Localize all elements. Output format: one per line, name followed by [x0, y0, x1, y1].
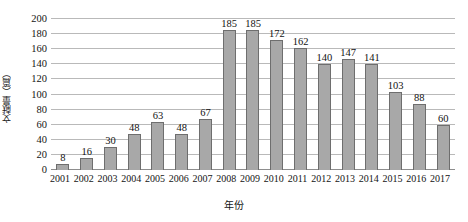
bar[interactable]: [56, 164, 69, 170]
bar-group[interactable]: 67: [194, 19, 218, 170]
y-axis-tick-label: 120: [13, 74, 47, 84]
bar-group[interactable]: 30: [99, 19, 123, 170]
y-axis-tick-label: 160: [13, 44, 47, 54]
bar[interactable]: [223, 30, 236, 170]
y-axis-tick-labels: 020406080100120140160180200: [14, 12, 50, 170]
bar[interactable]: [389, 92, 402, 170]
y-axis-tick-label: 80: [13, 105, 47, 115]
bar[interactable]: [342, 59, 355, 170]
bar[interactable]: [270, 40, 283, 170]
bar-group[interactable]: 48: [122, 19, 146, 170]
bar-group[interactable]: 48: [170, 19, 194, 170]
bar[interactable]: [199, 119, 212, 170]
y-axis-tick-label: 180: [13, 29, 47, 39]
bar[interactable]: [318, 64, 331, 170]
bar-group[interactable]: 140: [312, 19, 336, 170]
bar[interactable]: [294, 48, 307, 170]
y-axis-tick-label: 20: [13, 150, 47, 160]
bar-chart: 文献量（篇） 020406080100120140160180200 81630…: [0, 0, 468, 222]
bar-group[interactable]: 141: [360, 19, 384, 170]
bar-value-label: 60: [427, 113, 460, 124]
bar-group[interactable]: 63: [146, 19, 170, 170]
y-axis-tick-label: 200: [13, 14, 47, 24]
bar-group[interactable]: 60: [431, 19, 455, 170]
x-axis-tick-labels: 2001200220032004200520062007200820092010…: [51, 172, 455, 188]
bar[interactable]: [365, 64, 378, 170]
bar[interactable]: [175, 134, 188, 170]
y-axis-tick-label: 0: [13, 165, 47, 175]
bars-layer: 8163048634867185185172162140147141103886…: [51, 19, 455, 170]
bar[interactable]: [413, 104, 426, 170]
bar-group[interactable]: 185: [217, 19, 241, 170]
y-axis-tick-label: 40: [13, 135, 47, 145]
bar-group[interactable]: 147: [336, 19, 360, 170]
bar[interactable]: [437, 125, 450, 170]
bar-group[interactable]: 88: [407, 19, 431, 170]
bar[interactable]: [104, 147, 117, 170]
bar[interactable]: [80, 158, 93, 170]
bar-group[interactable]: 185: [241, 19, 265, 170]
bar-group[interactable]: 16: [75, 19, 99, 170]
bar[interactable]: [151, 122, 164, 170]
y-axis-tick-label: 60: [13, 120, 47, 130]
x-axis-tick-label: 2017: [425, 172, 455, 185]
plot-area: 8163048634867185185172162140147141103886…: [51, 19, 455, 170]
x-axis-title: 年份: [0, 197, 468, 212]
bar-group[interactable]: 162: [289, 19, 313, 170]
y-axis-tick-label: 100: [13, 90, 47, 100]
y-axis-tick-label: 140: [13, 59, 47, 69]
bar[interactable]: [246, 30, 259, 170]
bar[interactable]: [128, 134, 141, 170]
